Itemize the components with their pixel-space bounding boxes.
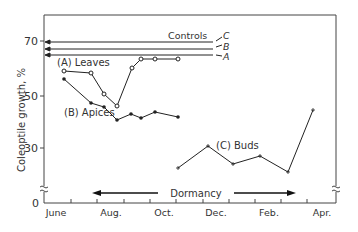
- controls-label: Controls: [168, 30, 207, 41]
- x-tick-feb: Feb.: [259, 207, 279, 218]
- x-tick-dec: Dec.: [205, 207, 226, 218]
- x-tick-june: June: [45, 207, 67, 218]
- buds-label: (C) Buds: [216, 140, 259, 151]
- y-tick-70: 70: [24, 35, 38, 48]
- x-tick-aug: Aug.: [100, 207, 122, 218]
- axis-break-right: [332, 186, 340, 192]
- x-tick-oct: Oct.: [154, 207, 173, 218]
- apices-label: (B) Apices: [64, 107, 115, 118]
- control-a-label: A: [222, 51, 230, 62]
- y-tick-0: 0: [32, 197, 39, 210]
- y-ticks: [40, 41, 44, 148]
- dormancy-label: Dormancy: [170, 188, 221, 199]
- axis-break-left: [40, 186, 48, 192]
- leaves-label: (A) Leaves: [57, 57, 110, 68]
- x-tick-apr: Apr.: [313, 207, 332, 218]
- coleoptile-growth-chart: 70 50 30 0 Coleoptile growth, % June Aug…: [0, 0, 358, 232]
- control-c-label: C: [223, 30, 230, 41]
- y-axis-label: Coleoptile growth, %: [16, 68, 27, 172]
- x-ticks: [71, 199, 307, 203]
